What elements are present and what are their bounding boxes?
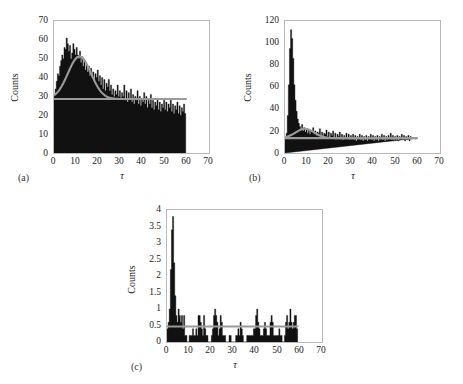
panel-a-ytick-5: 50 [26, 53, 48, 63]
panel-a-ytick-2: 20 [26, 110, 48, 120]
panel-c: Counts 4 3.5 3 2.5 2 1.5 1 0.5 0 0 10 20… [113, 196, 345, 384]
panel-a-ytick-7: 70 [26, 15, 48, 25]
panel-b-ytick-1: 20 [251, 126, 279, 136]
panel-c-ytick-0: 0 [133, 336, 161, 346]
panel-a-xtick-2: 20 [89, 156, 105, 166]
panel-c-ytick-4: 2 [133, 270, 161, 280]
panel-c-xtick-4: 40 [246, 345, 262, 355]
panel-c-xtick-1: 10 [180, 345, 196, 355]
panel-c-ytick-7: 3.5 [133, 221, 161, 231]
panel-b-ytick-2: 40 [251, 103, 279, 113]
panel-b-label: (b) [249, 172, 261, 183]
panel-a-xtick-5: 50 [156, 156, 172, 166]
panel-b-ytick-5: 100 [251, 37, 279, 47]
panel-a: Counts 70 60 50 40 30 20 10 0 0 10 20 30… [0, 0, 232, 196]
panel-a-ylabel: Counts [9, 65, 20, 111]
panel-b-ytick-0: 0 [251, 148, 279, 158]
panel-a-xtick-4: 40 [133, 156, 149, 166]
panel-a-xlabel: τ [112, 170, 132, 181]
panel-b-plot-area [284, 20, 441, 154]
panel-a-xtick-3: 30 [111, 156, 127, 166]
panel-a-ytick-3: 30 [26, 91, 48, 101]
panel-c-xtick-3: 30 [224, 345, 240, 355]
panel-c-xlabel: τ [225, 359, 245, 370]
panel-c-ytick-2: 1 [133, 303, 161, 313]
panel-c-xtick-6: 60 [291, 345, 307, 355]
panel-c-ytick-1: 0.5 [133, 320, 161, 330]
panel-b-xtick-5: 50 [387, 156, 403, 166]
panel-a-xtick-6: 60 [178, 156, 194, 166]
panel-b-xtick-3: 30 [342, 156, 358, 166]
panel-a-label: (a) [18, 172, 29, 183]
panel-a-xtick-7: 70 [200, 156, 216, 166]
panel-b: Counts 120 100 80 60 40 20 0 0 10 20 30 … [231, 0, 463, 196]
panel-b-xtick-1: 10 [298, 156, 314, 166]
panel-a-plot-area [53, 20, 210, 154]
panel-b-ytick-3: 60 [251, 81, 279, 91]
panel-c-label: (c) [131, 361, 142, 372]
panel-a-ytick-1: 10 [26, 129, 48, 139]
panel-b-xlabel: τ [343, 170, 363, 181]
panel-a-xtick-0: 0 [45, 156, 61, 166]
panel-c-ytick-5: 2.5 [133, 254, 161, 264]
panel-c-plot-area [166, 209, 323, 343]
panel-c-xtick-5: 50 [269, 345, 285, 355]
panel-b-xtick-2: 20 [320, 156, 336, 166]
panel-b-ytick-4: 80 [251, 59, 279, 69]
panel-c-ytick-3: 1.5 [133, 287, 161, 297]
panel-b-xtick-4: 40 [364, 156, 380, 166]
panel-b-xtick-0: 0 [276, 156, 292, 166]
panel-a-ytick-4: 40 [26, 72, 48, 82]
panel-a-ytick-6: 60 [26, 34, 48, 44]
panel-c-ytick-8: 4 [133, 204, 161, 214]
figure-three-histogram-panels: Counts 70 60 50 40 30 20 10 0 0 10 20 30… [0, 0, 463, 384]
panel-c-xtick-2: 20 [202, 345, 218, 355]
panel-c-xtick-0: 0 [158, 345, 174, 355]
panel-c-xtick-7: 70 [313, 345, 329, 355]
panel-c-ytick-6: 3 [133, 237, 161, 247]
panel-b-xtick-6: 60 [409, 156, 425, 166]
panel-a-xtick-1: 10 [67, 156, 83, 166]
panel-b-xtick-7: 70 [431, 156, 447, 166]
panel-b-ytick-6: 120 [251, 15, 279, 25]
